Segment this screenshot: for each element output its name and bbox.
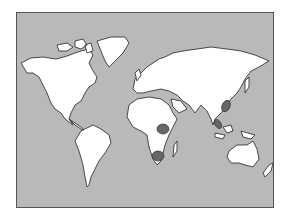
world-map bbox=[17, 13, 274, 208]
map-frame bbox=[16, 12, 274, 208]
highlight-east-africa bbox=[157, 124, 169, 134]
highlight-southern-africa bbox=[152, 151, 164, 161]
